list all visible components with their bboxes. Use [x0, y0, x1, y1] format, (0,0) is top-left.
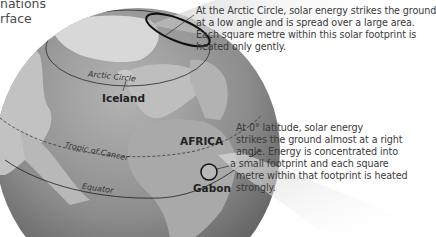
- equator-annotation-line-4: a small footprint and each square: [230, 158, 389, 170]
- equator-annotation-line-2: strikes the ground almost at a right: [236, 134, 402, 146]
- equator-annotation-line-1: At 0° latitude, solar energy: [236, 122, 363, 134]
- africa-label: AFRICA: [180, 135, 223, 147]
- gabon-label: Gabon: [193, 182, 231, 194]
- equator-annotation-line-5: metre within that footprint is heated: [236, 170, 407, 182]
- title-line-2: rface: [0, 12, 32, 26]
- title-line-1: nations: [0, 0, 46, 11]
- equator-annotation-line-6: strongly.: [236, 182, 276, 194]
- gabon-footprint-circle: [201, 164, 217, 180]
- arctic-annotation-line-1: At the Arctic Circle, solar energy strik…: [196, 5, 436, 17]
- equator-annotation-line-3: angle. Energy is concentrated into: [236, 146, 398, 158]
- arctic-annotation-line-2: at a low angle and is spread over a larg…: [196, 17, 415, 29]
- arctic-annotation-line-4: heated only gently.: [196, 41, 286, 53]
- arctic-annotation-line-3: Each square metre within this solar foot…: [196, 29, 416, 41]
- iceland-label: Iceland: [102, 92, 145, 104]
